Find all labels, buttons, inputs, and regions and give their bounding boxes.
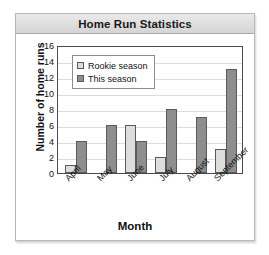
plot-box: Rookie season This season: [57, 46, 243, 174]
screenshot-root: Home Run Statistics Number of home runs …: [0, 0, 269, 255]
legend-label-current: This season: [88, 74, 137, 84]
y-tick-0: 0: [49, 170, 54, 179]
bar-group-august: [182, 47, 210, 173]
y-tick-8: 8: [49, 106, 54, 115]
legend-swatch-icon-current: [77, 75, 84, 82]
y-axis-tick-labels: 0 2 4 6 8 10 12 14 16: [37, 46, 54, 174]
chart-title: Home Run Statistics: [78, 18, 192, 30]
chart-title-bar: Home Run Statistics: [16, 14, 254, 34]
y-tick-12: 12: [44, 74, 54, 83]
legend-label-rookie: Rookie season: [88, 61, 148, 71]
legend-entry-current: This season: [77, 72, 148, 85]
y-tick-14: 14: [44, 58, 54, 67]
x-axis-title: Month: [16, 220, 254, 232]
chart-legend: Rookie season This season: [72, 55, 155, 89]
y-tick-4: 4: [49, 138, 54, 147]
y-tick-2: 2: [49, 154, 54, 163]
legend-entry-rookie: Rookie season: [77, 59, 148, 72]
y-tick-10: 10: [44, 90, 54, 99]
chart-area: Number of home runs 0 2 4 6 8 10 12 14 1…: [16, 35, 254, 240]
y-tick-6: 6: [49, 122, 54, 131]
bar-group-july: [152, 47, 180, 173]
y-tick-16: 16: [44, 42, 54, 51]
chart-card: Home Run Statistics Number of home runs …: [15, 13, 255, 241]
legend-swatch-icon-rookie: [77, 62, 84, 69]
x-axis-tick-labels: April May June July August September: [57, 176, 243, 220]
